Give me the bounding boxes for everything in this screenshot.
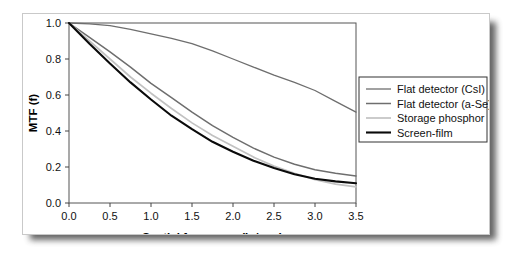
x-tick-label: 2.5 — [266, 210, 281, 222]
chart-figure: 0.00.51.01.52.02.53.03.50.00.20.40.60.81… — [23, 14, 489, 234]
y-axis-title: MTF (f) — [27, 94, 39, 132]
screenshot-root: 0.00.51.01.52.02.53.03.50.00.20.40.60.81… — [0, 0, 516, 262]
y-tick-label: 1.0 — [46, 17, 61, 29]
curve-flat-detector-csi — [69, 23, 356, 112]
y-tick-label: 0.0 — [46, 197, 61, 209]
curve-screen-film — [69, 23, 356, 183]
x-tick-label: 3.0 — [307, 210, 322, 222]
legend-label-1: Flat detector (a-Se) — [397, 98, 489, 110]
y-tick-label: 0.2 — [46, 161, 61, 173]
legend-label-2: Storage phosphor — [397, 112, 485, 124]
x-axis-title: Spatial frequency (lp/mm) — [142, 231, 283, 234]
curve-storage-phosphor — [69, 23, 356, 187]
curve-flat-detector-a-se — [69, 23, 356, 176]
x-tick-label: 0.0 — [61, 210, 76, 222]
figure-card: 0.00.51.01.52.02.53.03.50.00.20.40.60.81… — [22, 13, 490, 235]
y-tick-label: 0.8 — [46, 53, 61, 65]
x-tick-label: 1.5 — [184, 210, 199, 222]
mtf-line-chart: 0.00.51.01.52.02.53.03.50.00.20.40.60.81… — [23, 14, 489, 234]
x-tick-label: 0.5 — [102, 210, 117, 222]
y-tick-label: 0.4 — [46, 125, 61, 137]
y-tick-label: 0.6 — [46, 89, 61, 101]
x-tick-label: 2.0 — [225, 210, 240, 222]
plot-frame — [69, 23, 356, 203]
legend-label-3: Screen-film — [397, 127, 453, 139]
x-tick-label: 1.0 — [143, 210, 158, 222]
legend-label-0: Flat detector (CsI) — [397, 83, 485, 95]
x-tick-label: 3.5 — [348, 210, 363, 222]
